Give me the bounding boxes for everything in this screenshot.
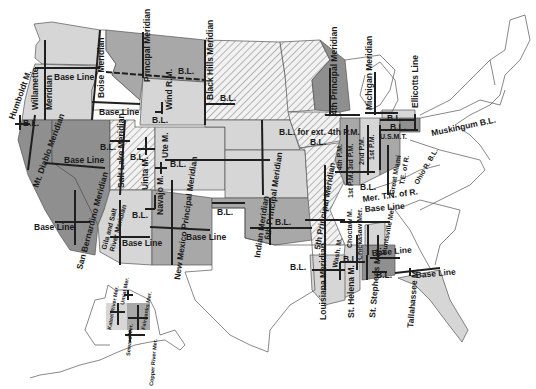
label-1st-pm: 1st P.M. [368,134,375,160]
public-land-survey-map: Humboldt M. Willamette Meridian Base Lin… [0,0,536,389]
label-principal-meridian: Principal Meridian [142,9,152,82]
sixth-pm-line [262,120,263,195]
label-copper-river: Copper River Mer. [148,338,158,386]
label-base-line-tn: Base Line [364,201,405,214]
label-bl-indian: B.L. [275,217,291,227]
label-bl-ute: B.L. [170,159,186,169]
label-bl-arkansas: B.L. [290,262,306,272]
label-st-helena: St. Helena M. [346,265,356,318]
label-willamette: Willamette [30,67,40,110]
outline-georgia [395,210,430,268]
label-navajo-m: Navajo M. [155,175,165,215]
label-fourth-principal-meridian: 4th Principal Meridian [329,27,339,115]
label-base-line-or: Base Line [54,72,94,82]
label-bl-humboldt: B.L. [23,118,39,128]
label-1st-pm-lower: 1st P.M. [347,172,354,198]
label-base-line-fl: Base Line [415,267,456,280]
region-kansas [225,150,308,198]
outline-alaska [30,285,185,378]
label-bl-gila: B.L. [132,210,148,220]
label-ute-m: Ute M. [160,133,170,159]
label-salt-lake-meridian: Salt Lake Meridian [116,113,126,188]
label-willamette-meridian: Meridian [44,75,54,110]
label-choctaw: Choctaw M. [346,209,353,248]
label-black-hills-meridian: Black Hills Meridian [205,20,215,100]
label-louisiana-meridian: Louisiana Meridian [318,243,328,320]
label-wind-rm: Wind R.M. [164,69,174,110]
label-bl-montana: B.L. [178,66,194,76]
label-base-line-socal: Base Line [34,222,74,232]
label-chickasaw: Chickasaw Mer. [356,208,363,260]
label-base-line-az: Base Line [122,238,162,248]
label-bl-wash: B.L. [343,254,359,264]
label-base-line-nm: Base Line [186,232,226,242]
label-bl-texas-panhandle: B.L. [217,207,233,217]
label-michigan-meridian: Michigan Meridian [364,36,374,110]
label-ellicotts-line: Ellicotts Line [410,55,420,108]
outline-northeast [420,15,530,125]
label-bl-salt-lake: B.L. [100,142,116,152]
label-muskingum-bl: Muskingum B.L. [430,115,496,138]
label-usmt: U.S.M.T. [380,133,407,140]
label-bl-michigan-2: B.L. [390,122,406,132]
label-bl-for-ext: B.L. for ext. 4th P.M. [279,127,360,137]
label-base-line-ca: Base Line [64,155,104,165]
label-3rd-pm: 3rd P.M. [347,144,354,170]
label-bl-illinois: B.L. [310,137,326,147]
label-bl-black-hills: B.L. [220,93,236,103]
label-bl-central: B.L. [360,182,376,192]
label-4th-pm: 4th P.M. [336,144,343,170]
label-bl-wind: B.L. [152,115,168,125]
label-bl-st-stephens: B.L. [376,270,392,280]
label-uinta-m: Uinta M. [140,157,150,190]
region-washington [34,22,100,65]
outline-new-england [480,60,505,105]
label-boise-meridian: Boise Meridian [96,38,106,98]
region-dakotas [205,40,290,120]
label-2nd-pm: 2nd P.M. [358,137,365,165]
